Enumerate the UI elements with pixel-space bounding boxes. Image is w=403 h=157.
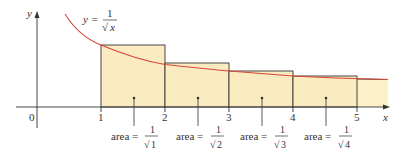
rect-3: [229, 71, 293, 107]
tick-5: 5: [354, 111, 360, 123]
svg-text:1: 1: [151, 139, 156, 150]
svg-text:√: √: [144, 139, 150, 150]
y-axis-label: y: [26, 7, 32, 19]
svg-text:area =: area =: [304, 130, 331, 142]
x-axis-label: x: [382, 111, 388, 123]
svg-text:√: √: [338, 139, 344, 150]
area-label-1: area = 1 √ 1: [111, 124, 158, 150]
svg-text:√: √: [210, 139, 216, 150]
tick-1: 1: [98, 111, 104, 123]
svg-text:area =: area =: [176, 130, 203, 142]
svg-text:x: x: [109, 21, 115, 33]
svg-text:√: √: [274, 139, 280, 150]
svg-text:1: 1: [344, 124, 349, 135]
svg-text:2: 2: [217, 139, 222, 150]
rectangles: [101, 45, 357, 107]
svg-text:area =: area =: [240, 130, 267, 142]
rect-2: [165, 63, 229, 107]
svg-text:area =: area =: [111, 130, 138, 142]
area-label-3: area = 1 √ 3: [240, 124, 288, 150]
svg-text:1: 1: [107, 7, 113, 19]
y-axis-arrow-icon: [35, 11, 40, 18]
svg-text:4: 4: [345, 139, 350, 150]
origin-label: 0: [29, 111, 35, 123]
area-label-2: area = 1 √ 2: [176, 124, 224, 150]
area-label-4: area = 1 √ 4: [304, 124, 352, 150]
diagram-svg: y x 0 1 2 3 4 5 y = 1 √ x area = 1 √ 1 a…: [0, 0, 403, 157]
curve-label: y = 1 √ x: [82, 7, 117, 33]
svg-text:1: 1: [150, 124, 155, 135]
svg-text:y =: y =: [82, 13, 98, 25]
svg-text:3: 3: [281, 139, 286, 150]
tick-4: 4: [290, 111, 296, 123]
tick-3: 3: [226, 111, 232, 123]
svg-text:1: 1: [216, 124, 221, 135]
svg-text:1: 1: [280, 124, 285, 135]
riemann-sum-diagram: y x 0 1 2 3 4 5 y = 1 √ x area = 1 √ 1 a…: [0, 0, 403, 157]
tick-2: 2: [162, 111, 168, 123]
svg-text:√: √: [102, 21, 109, 33]
rect-4: [293, 76, 357, 107]
